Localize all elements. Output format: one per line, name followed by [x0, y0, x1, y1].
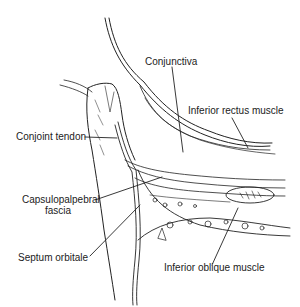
leader-lines: [85, 67, 248, 265]
label-capsulopalpebral-line2: fascia: [22, 205, 94, 216]
label-inferior-rectus-muscle: Inferior rectus muscle: [188, 105, 284, 116]
label-capsulopalpebral-fascia: Capsulopalpebral fascia: [22, 194, 94, 216]
orbital-fat: [153, 198, 264, 240]
globe-curves: [105, 18, 275, 154]
anatomy-diagram: Conjunctiva Inferior rectus muscle Conjo…: [0, 0, 300, 307]
septum-lines: [115, 122, 290, 305]
label-inferior-oblique-muscle: Inferior oblique muscle: [164, 262, 265, 273]
label-conjoint-tendon: Conjoint tendon: [16, 131, 86, 142]
label-conjunctiva: Conjunctiva: [145, 56, 197, 67]
label-septum-orbitale: Septum orbitale: [18, 252, 88, 263]
label-capsulopalpebral-line1: Capsulopalpebral: [22, 194, 94, 205]
